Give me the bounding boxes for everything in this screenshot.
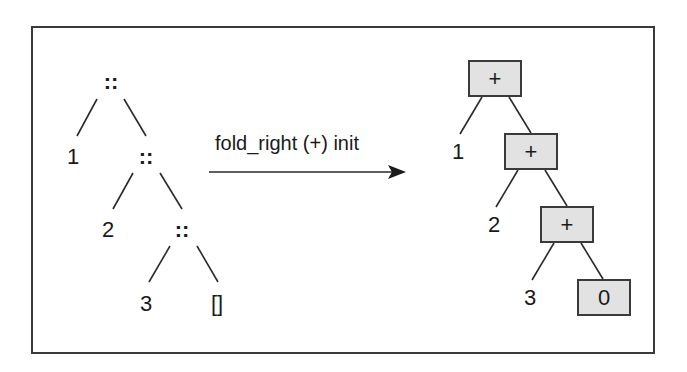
value-1: 1 [452, 141, 464, 163]
cons-node-2: :: [139, 146, 154, 168]
leaf-nil: [] [211, 293, 223, 315]
init-value-node: 0 [577, 279, 631, 316]
tree-edges [0, 0, 687, 372]
cons-node-3: :: [175, 219, 190, 241]
plus-node-3: + [540, 206, 594, 243]
leaf-3: 3 [140, 293, 152, 315]
cons-node-root: :: [104, 71, 119, 93]
leaf-2: 2 [102, 219, 114, 241]
fold-right-label: fold_right (+) init [215, 132, 359, 155]
plus-node-2: + [504, 133, 558, 170]
value-2: 2 [488, 214, 500, 236]
plus-node-root: + [468, 60, 522, 97]
leaf-1: 1 [67, 146, 79, 168]
value-3: 3 [524, 287, 536, 309]
